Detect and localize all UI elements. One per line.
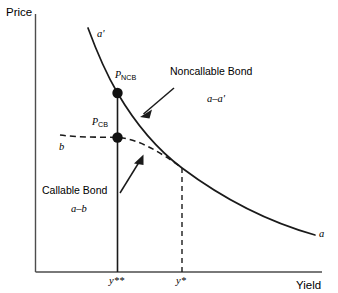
y-axis-label: Price	[6, 7, 32, 19]
curve-label-a-prime: a'	[97, 29, 105, 40]
point-label-p-ncb: PNCB	[115, 70, 136, 80]
x-tick-label-y-star: y*	[176, 276, 186, 287]
annotation-noncallable-bond-title: Noncallable Bond	[170, 66, 252, 77]
x-axis-label: Yield	[296, 280, 321, 292]
marker-p-ncb	[112, 88, 122, 98]
x-tick-label-y-double-star: y**	[109, 276, 124, 287]
noncallable-bond-arrow	[140, 88, 174, 119]
marker-p-cb	[112, 132, 122, 142]
point-label-p-cb-sub: CB	[98, 120, 108, 129]
annotation-callable-bond-title: Callable Bond	[42, 185, 107, 196]
noncallable-bond-curve	[88, 28, 315, 235]
point-label-p-ncb-sub: NCB	[121, 73, 136, 82]
callable-bond-arrow	[120, 155, 144, 194]
annotation-callable-bond-subtitle: a–b	[71, 204, 87, 215]
curve-label-a: a	[319, 229, 324, 240]
annotation-noncallable-bond-subtitle: a–a'	[207, 94, 225, 105]
curve-label-b: b	[59, 142, 64, 153]
chart-figure: Price Yield a' a b PNCB PCB Noncallable …	[0, 0, 338, 293]
point-label-p-cb: PCB	[92, 117, 108, 127]
chart-plot-area	[0, 0, 338, 293]
